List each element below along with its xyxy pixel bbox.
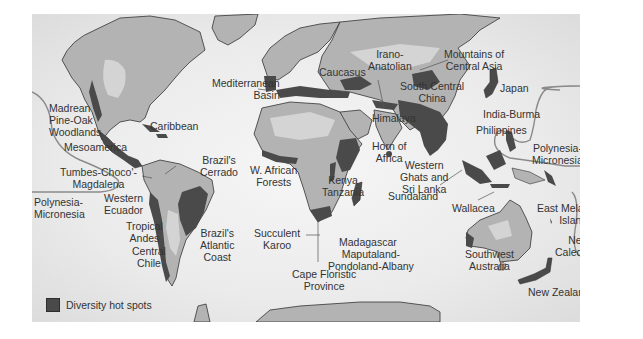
label-mediterranean: MediterraneanBasin: [212, 77, 280, 101]
label-polynesia-west: Polynesia-Micronesia: [34, 196, 85, 220]
label-polynesia-east: Polynesia-Micronesia: [532, 142, 580, 166]
label-western-ecuador: WesternEcuador: [104, 192, 143, 216]
label-madagascar: Madagascar: [339, 236, 397, 248]
label-wallacea: Wallacea: [452, 202, 495, 214]
label-brazil-cerrado: Brazil'sCerrado: [200, 154, 238, 178]
world-map: MadreanPine-OakWoodlands Caribbean Mesoa…: [32, 14, 580, 322]
legend: Diversity hot spots: [46, 298, 152, 312]
antarctica: [256, 302, 440, 322]
greenland: [212, 14, 258, 45]
sundaland-hotspot: [462, 160, 492, 184]
label-east-melanesian: East MelanesianIslands: [537, 202, 580, 226]
legend-swatch-hotspot: [46, 298, 60, 312]
wallacea-hotspot: [490, 184, 510, 188]
label-new-caledonia: NewCaledonia: [555, 234, 580, 258]
label-caribbean: Caribbean: [150, 120, 198, 132]
label-central-chile: CentralChile: [132, 245, 166, 269]
label-south-central-china: South CentralChina: [400, 80, 464, 104]
japan-hotspot: [484, 68, 498, 98]
label-tropical-andes: TropicalAndes: [126, 220, 163, 244]
label-w-african-forests: W. AfricanForests: [250, 164, 297, 188]
east-melanesian-hotspot: [544, 170, 556, 186]
label-new-zealand: New Zealand: [528, 286, 580, 298]
label-caucasus: Caucasus: [319, 66, 366, 78]
label-philippines: Philippines: [476, 124, 527, 136]
label-brazil-atlantic: Brazil'sAtlanticCoast: [200, 227, 234, 263]
label-sundaland: Sundaland: [388, 190, 438, 202]
label-mesoamerica: Mesoamerica: [64, 141, 127, 153]
label-himalaya: Himalaya: [372, 112, 416, 124]
label-japan: Japan: [500, 82, 529, 94]
label-mountains-central-asia: Mountains ofCentral Asia: [444, 48, 504, 72]
label-india-burma: India-Burma: [483, 108, 540, 120]
legend-label: Diversity hot spots: [66, 299, 152, 311]
label-tumbes: Tumbes-Choco'-Magdalena: [60, 166, 137, 190]
label-kenya-tanzania: KenyaTanzania: [322, 174, 364, 198]
label-cape-floristic: Cape FloristicProvince: [292, 268, 356, 292]
label-southwest-australia: SouthwestAustralia: [465, 248, 514, 272]
label-succulent-karoo: SucculentKaroo: [254, 227, 300, 251]
label-irano-anatolian: Irano-Anatolian: [368, 48, 412, 72]
label-madrean: MadreanPine-OakWoodlands: [49, 102, 101, 138]
new-zealand-hotspot: [518, 258, 552, 284]
